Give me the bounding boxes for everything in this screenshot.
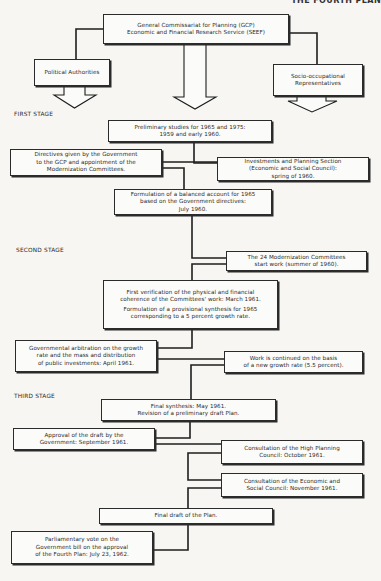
- stage-label-second: SECOND STAGE: [16, 247, 64, 253]
- box-text: corresponding to a 5 percent growth rate…: [131, 313, 250, 320]
- box-text: Social Council: November 1961.: [246, 485, 337, 492]
- box-final-synthesis: Final synthesis: May 1961. Revision of a…: [101, 399, 276, 421]
- socio-arrow-icon: [288, 96, 337, 112]
- box-text: Preliminary studies for 1965 and 1975:: [134, 124, 245, 131]
- box-text: (Economic and Social Council):: [249, 165, 337, 172]
- box-text: Final synthesis: May 1961.: [151, 403, 226, 410]
- box-preliminary-studies: Preliminary studies for 1965 and 1975: 1…: [108, 120, 272, 142]
- box-text: Representatives: [295, 80, 341, 87]
- box-text: Government bill on the approval: [36, 544, 128, 551]
- political-arrow-icon: [54, 86, 96, 108]
- box-text: Political Authorities: [45, 69, 100, 76]
- box-text: Governmental arbitration on the growth: [29, 345, 143, 352]
- box-text: July 1960.: [179, 206, 207, 213]
- box-text: Work is continued on the basis: [250, 355, 337, 362]
- box-balanced-account: Formulation of a balanced account for 19…: [114, 189, 272, 215]
- center-arrow-icon: [174, 44, 216, 109]
- box-text: General Commissariat for Planning (GCP): [137, 22, 254, 29]
- box-work-continued: Work is continued on the basis of a new …: [224, 351, 363, 373]
- box-text: of a new growth rate (5.5 percent).: [243, 362, 343, 369]
- box-first-verification: First verification of the physical and f…: [103, 280, 278, 329]
- box-text: Government: September 1961.: [40, 439, 129, 446]
- box-text: start work (summer of 1960).: [255, 261, 339, 268]
- box-investments-planning: Investments and Planning Section (Econom…: [217, 157, 369, 181]
- box-gcp: General Commissariat for Planning (GCP) …: [103, 14, 289, 44]
- box-high-planning-council: Consultation of the High Planning Counci…: [221, 440, 363, 464]
- box-text: to the GCP and appointment of the: [36, 159, 136, 166]
- box-government-directives: Directives given by the Government to th…: [10, 149, 162, 176]
- box-text: Council: October 1961.: [259, 452, 325, 459]
- box-text: of the Fourth Plan: July 23, 1962.: [35, 551, 129, 558]
- stage-label-third: THIRD STAGE: [14, 393, 55, 399]
- box-parliamentary-vote: Parliamentary vote on the Government bil…: [11, 531, 153, 564]
- box-final-draft: Final draft of the Plan.: [99, 508, 273, 524]
- box-text: coherence of the Committees' work: March…: [120, 296, 261, 303]
- box-approval-draft: Approval of the draft by the Government:…: [13, 428, 155, 450]
- box-text: Formulation of a balanced account for 19…: [131, 191, 256, 198]
- box-text: Economic and Financial Research Service …: [127, 29, 265, 36]
- box-text: 1959 and early 1960.: [159, 131, 220, 138]
- box-committees-start: The 24 Modernization Committees start wo…: [226, 251, 367, 271]
- box-text: Formulation of a provisional synthesis f…: [124, 306, 258, 313]
- box-socio-occupational: Socio-occupational Representatives: [273, 64, 363, 96]
- box-text: First verification of the physical and f…: [127, 289, 255, 296]
- box-text: Socio-occupational: [291, 73, 345, 80]
- box-text: The 24 Modernization Committees: [248, 254, 346, 261]
- box-text: Consultation of the High Planning: [244, 445, 340, 452]
- box-text: Directives given by the Government: [34, 151, 137, 158]
- box-text: Final draft of the Plan.: [155, 512, 218, 519]
- box-text: Investments and Planning Section: [245, 158, 342, 165]
- box-text: Modernization Committees.: [47, 166, 125, 173]
- box-text: Revision of a preliminary draft Plan.: [138, 410, 240, 417]
- box-text: Approval of the draft by the: [44, 432, 123, 439]
- box-text: spring of 1960.: [271, 173, 314, 180]
- box-text: of public investments: April 1961.: [38, 360, 134, 367]
- planning-flowchart: THE FOURTH PLAN: [0, 0, 381, 581]
- box-text: based on the Government directives:: [140, 198, 246, 205]
- stage-label-first: FIRST STAGE: [14, 111, 53, 117]
- box-economic-social-council: Consultation of the Economic and Social …: [221, 473, 363, 497]
- box-text: rate and the mass and distribution: [37, 352, 136, 359]
- box-text: Parliamentary vote on the: [45, 536, 119, 543]
- box-political-authorities: Political Authorities: [34, 59, 110, 86]
- box-governmental-arbitration: Governmental arbitration on the growth r…: [15, 340, 157, 372]
- box-text: Consultation of the Economic and: [244, 478, 340, 485]
